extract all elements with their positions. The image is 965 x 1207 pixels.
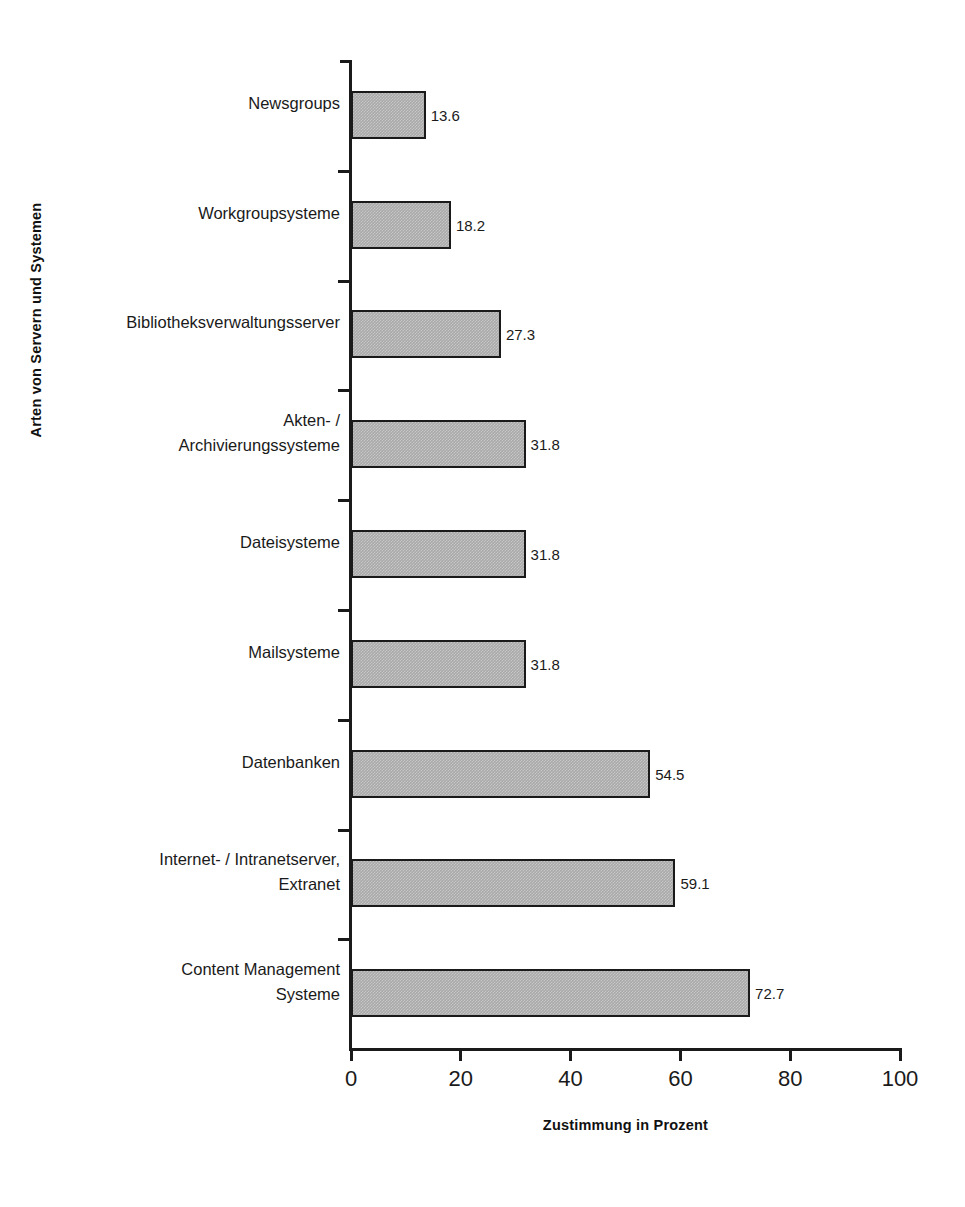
bar-value-label: 27.3 xyxy=(506,326,535,343)
category-label: Workgroupsysteme xyxy=(0,201,340,226)
bar-row: Bibliotheksverwaltungsserver 27.3 xyxy=(351,280,900,390)
y-axis-tick xyxy=(338,609,351,612)
bar[interactable]: 59.1 xyxy=(351,859,675,907)
plot-area: Newsgroups 13.6 Workgroupsysteme 18.2 Bi… xyxy=(351,60,900,1048)
x-axis-tick xyxy=(789,1048,792,1061)
category-label: Content Management Systeme xyxy=(0,957,340,1007)
bar-value-label: 59.1 xyxy=(680,875,709,892)
category-label: Dateisysteme xyxy=(0,530,340,555)
y-axis-tick xyxy=(338,829,351,832)
x-axis-tick-label: 80 xyxy=(778,1066,802,1092)
x-axis-tick xyxy=(899,1048,902,1061)
bar[interactable]: 18.2 xyxy=(351,201,451,249)
bar-row: Mailsysteme 31.8 xyxy=(351,609,900,719)
bar-value-label: 31.8 xyxy=(531,546,560,563)
category-label: Mailsysteme xyxy=(0,640,340,665)
bar-row: Newsgroups 13.6 xyxy=(351,60,900,170)
x-axis-title: Zustimmung in Prozent xyxy=(351,1117,900,1133)
x-axis-tick xyxy=(459,1048,462,1061)
y-axis-tick xyxy=(338,938,351,941)
bar-value-label: 54.5 xyxy=(655,765,684,782)
bar-value-label: 18.2 xyxy=(456,216,485,233)
bar-row: Workgroupsysteme 18.2 xyxy=(351,170,900,280)
bar-chart: Arten von Servern und Systemen Newsgroup… xyxy=(0,0,965,1207)
x-axis-tick-label: 60 xyxy=(668,1066,692,1092)
bar[interactable]: 31.8 xyxy=(351,530,526,578)
x-axis-line xyxy=(349,1048,901,1051)
bar-value-label: 31.8 xyxy=(531,655,560,672)
bar-value-label: 13.6 xyxy=(431,106,460,123)
bar-row: Content Management Systeme 72.7 xyxy=(351,938,900,1048)
bar-row: Dateisysteme 31.8 xyxy=(351,499,900,609)
y-axis-tick xyxy=(338,389,351,392)
x-axis-tick xyxy=(679,1048,682,1061)
bar-row: Akten- / Archivierungssysteme 31.8 xyxy=(351,389,900,499)
x-axis-tick-label: 20 xyxy=(449,1066,473,1092)
y-axis-tick xyxy=(338,280,351,283)
y-axis-tick xyxy=(338,499,351,502)
bar[interactable]: 13.6 xyxy=(351,91,426,139)
bar[interactable]: 54.5 xyxy=(351,750,650,798)
bar[interactable]: 27.3 xyxy=(351,310,501,358)
x-axis-tick xyxy=(350,1048,353,1061)
category-label: Datenbanken xyxy=(0,750,340,775)
bar[interactable]: 31.8 xyxy=(351,420,526,468)
category-label: Bibliotheksverwaltungsserver xyxy=(0,310,340,335)
x-axis-tick-label: 100 xyxy=(882,1066,919,1092)
x-axis-tick-label: 40 xyxy=(558,1066,582,1092)
bar[interactable]: 72.7 xyxy=(351,969,750,1017)
category-label: Internet- / Intranetserver, Extranet xyxy=(0,847,340,897)
bar-row: Datenbanken 54.5 xyxy=(351,719,900,829)
bar-row: Internet- / Intranetserver, Extranet 59.… xyxy=(351,829,900,939)
category-label: Newsgroups xyxy=(0,91,340,116)
bar-value-label: 72.7 xyxy=(755,985,784,1002)
bar-value-label: 31.8 xyxy=(531,436,560,453)
x-axis-tick-label: 0 xyxy=(345,1066,357,1092)
y-axis-tick xyxy=(338,170,351,173)
bar[interactable]: 31.8 xyxy=(351,640,526,688)
category-label: Akten- / Archivierungssysteme xyxy=(0,408,340,458)
x-axis-tick xyxy=(569,1048,572,1061)
y-axis-tick xyxy=(338,719,351,722)
